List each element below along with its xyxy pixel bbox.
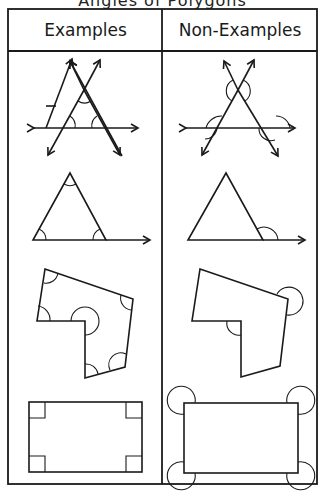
example-triangle (33, 173, 150, 240)
non-example-triangle (188, 173, 305, 240)
examples-table (0, 0, 325, 495)
column-header-examples: Examples (9, 10, 162, 50)
example-concave-hexagon (37, 269, 133, 378)
example-rectangle (29, 402, 142, 472)
column-header-non-examples: Non-Examples (163, 10, 317, 50)
example-intersecting-lines (34, 59, 138, 156)
non-example-concave-hexagon (192, 269, 288, 377)
non-example-intersecting-lines (186, 60, 295, 156)
non-example-rectangle (184, 403, 298, 473)
